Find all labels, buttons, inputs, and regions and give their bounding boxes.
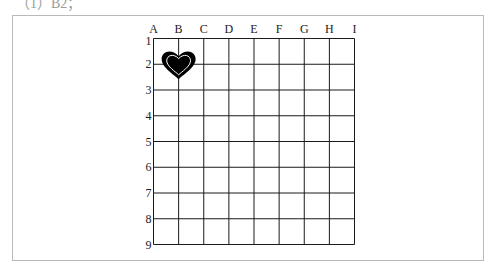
- row-label-9: 9: [146, 239, 152, 251]
- row-label-8: 8: [146, 213, 152, 225]
- column-label-f: F: [276, 23, 283, 35]
- column-label-h: H: [325, 23, 334, 35]
- row-label-1: 1: [146, 35, 152, 47]
- row-label-7: 7: [146, 187, 152, 199]
- row-label-2: 2: [146, 58, 152, 70]
- row-label-6: 6: [146, 161, 152, 173]
- column-label-b: B: [175, 23, 183, 35]
- column-label-i: I: [353, 23, 357, 35]
- column-label-c: C: [200, 23, 208, 35]
- row-label-3: 3: [146, 84, 152, 96]
- row-label-4: 4: [146, 110, 152, 122]
- column-label-g: G: [300, 23, 309, 35]
- coordinate-grid: [0, 0, 497, 276]
- row-label-5: 5: [146, 136, 152, 148]
- column-label-e: E: [250, 23, 257, 35]
- column-label-d: D: [225, 23, 234, 35]
